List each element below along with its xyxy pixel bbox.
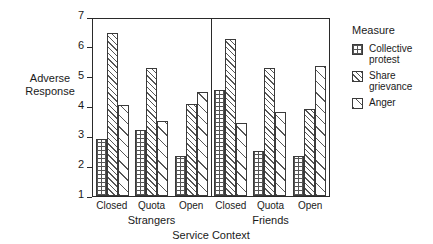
bar [135,130,146,196]
x-axis-title: Service Context [92,228,330,242]
legend-item-anger: Anger [352,97,432,109]
bar [214,90,225,196]
x-axis-category-label: Quota [132,199,172,213]
dense-hatch-swatch-icon [352,71,363,82]
bar-group [172,19,211,196]
y-axis-title-line1: Adverse [14,72,86,85]
y-axis-tick-label: 5 [78,70,84,81]
bar-group [250,19,289,196]
bar [107,33,118,196]
bar [253,151,264,196]
bar-group [211,19,250,196]
legend-label-line1: Collective [369,43,412,54]
y-axis-tick-label: 7 [78,10,84,21]
legend-label-line2: protest [369,54,412,65]
bar [146,68,157,196]
bar [315,66,326,196]
legend-label-collective-protest: Collective protest [369,43,412,65]
plot-area [92,18,330,197]
legend-label-line1: Anger [369,97,396,108]
crosshatch-grid-swatch-icon [352,44,363,55]
x-axis-section-friends: Friends [211,213,330,228]
bar [186,104,197,196]
y-axis-tick-label: 3 [78,129,84,140]
legend-label-share-grievance: Share grievance [369,70,412,92]
legend: Measure Collective protest Share grievan… [352,24,432,114]
x-axis-category-label: Open [171,199,211,213]
bar-chart: Adverse Response 1234567 ClosedQuotaOpen… [0,0,433,244]
bar [236,123,247,196]
y-axis-tick-label: 1 [78,189,84,200]
y-axis-tick-label: 4 [78,100,84,111]
bar [275,112,286,196]
bar [304,109,315,196]
legend-title: Measure [352,24,432,37]
legend-label-line2: grievance [369,81,412,92]
y-axis-tick-label: 6 [78,40,84,51]
y-axis-tick-label: 2 [78,159,84,170]
x-axis-category-label: Closed [211,199,251,213]
sparse-hatch-swatch-icon [352,98,363,109]
legend-item-share-grievance: Share grievance [352,70,432,92]
bar [293,156,304,196]
bar [225,39,236,196]
bar [157,121,168,196]
bar [96,139,107,196]
x-axis-section-strangers: Strangers [92,213,211,228]
legend-item-collective-protest: Collective protest [352,43,432,65]
x-axis-category-label: Closed [92,199,132,213]
bar [118,105,129,196]
bar-groups [93,19,329,196]
x-axis-section-labels: Strangers Friends [92,213,330,228]
legend-label-line1: Share [369,70,412,81]
bar [264,68,275,196]
bar-group [132,19,171,196]
bar-group [290,19,329,196]
y-axis-title-line2: Response [14,85,86,98]
legend-label-anger: Anger [369,97,396,108]
bar [197,92,208,196]
y-axis-title: Adverse Response [14,72,86,98]
bar-group [93,19,132,196]
x-axis-category-label: Open [290,199,330,213]
bar [175,156,186,196]
x-axis-category-labels: ClosedQuotaOpenClosedQuotaOpen [92,199,330,213]
x-axis-category-label: Quota [251,199,291,213]
